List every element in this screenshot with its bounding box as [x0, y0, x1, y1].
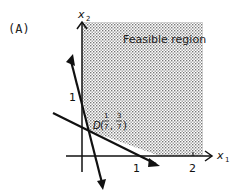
- x-axis-label: x: [216, 149, 224, 162]
- x-tick-label-1: 1: [133, 162, 140, 175]
- x-tick-label-2: 2: [189, 162, 196, 175]
- panel-label: (A): [8, 22, 30, 36]
- feasible-region-diagram: 1 2 1 x 1 x 2 D ( 1 7 , 3 7 ): [0, 0, 239, 190]
- arrowhead-icon: [66, 54, 75, 66]
- comma: ,: [110, 121, 113, 131]
- y-tick-label-1: 1: [69, 91, 76, 104]
- y-axis-label: x: [77, 8, 85, 21]
- point-y-num: 3: [117, 112, 121, 120]
- paren-close: ): [123, 120, 127, 131]
- y-axis-subscript: 2: [86, 15, 90, 23]
- x-axis-subscript: 1: [225, 156, 229, 164]
- feasible-region-label: Feasible region: [123, 33, 206, 46]
- arrowhead-icon: [148, 158, 160, 167]
- point-x-den: 7: [104, 123, 108, 131]
- point-y-den: 7: [117, 123, 121, 131]
- point-x-num: 1: [104, 112, 108, 120]
- arrowhead-icon: [97, 179, 106, 190]
